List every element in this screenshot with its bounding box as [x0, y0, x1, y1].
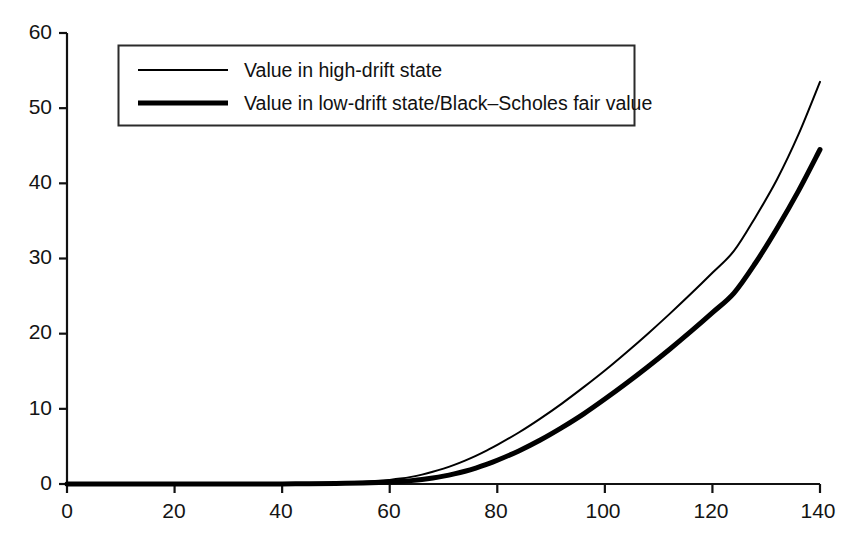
x-tick-label-80: 80 [466, 499, 526, 523]
x-tick-label-0: 0 [37, 499, 97, 523]
x-tick-label-120: 120 [681, 499, 741, 523]
y-tick-label-0: 0 [0, 471, 52, 495]
x-tick-label-40: 40 [251, 499, 311, 523]
x-tick-label-60: 60 [359, 499, 419, 523]
data-series-group [67, 82, 820, 484]
y-tick-label-10: 10 [0, 396, 52, 420]
legend-label-high-drift: Value in high-drift state [244, 59, 442, 82]
y-tick-label-20: 20 [0, 320, 52, 344]
chart-plot-area [0, 0, 865, 547]
y-tick-label-60: 60 [0, 20, 52, 44]
series-line-low-drift [67, 150, 820, 484]
y-tick-label-30: 30 [0, 245, 52, 269]
y-tick-label-40: 40 [0, 170, 52, 194]
legend-label-low-drift: Value in low-drift state/Black–Scholes f… [244, 92, 652, 115]
series-line-high-drift [67, 82, 820, 484]
x-tick-label-20: 20 [144, 499, 204, 523]
y-tick-label-50: 50 [0, 95, 52, 119]
x-tick-label-140: 140 [788, 499, 848, 523]
x-tick-label-100: 100 [573, 499, 633, 523]
chart-container: 60 50 40 30 20 10 0 0 20 40 60 80 100 12… [0, 0, 865, 547]
